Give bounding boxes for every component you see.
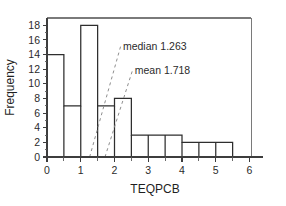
y-tick-label: 14 xyxy=(28,48,40,60)
annotation-label-median: median 1.263 xyxy=(123,40,187,52)
y-tick-label: 0 xyxy=(34,151,40,163)
annotation-label-mean: mean 1.718 xyxy=(135,64,191,76)
chart-background xyxy=(0,0,286,206)
x-axis-title: TEQPCB xyxy=(130,182,179,196)
x-tick-label: 3 xyxy=(145,164,151,176)
x-tick-label: 1 xyxy=(78,164,84,176)
x-tick-label: 5 xyxy=(213,164,219,176)
y-tick-label: 6 xyxy=(34,107,40,119)
y-tick-label: 16 xyxy=(28,34,40,46)
x-tick-label: 0 xyxy=(44,164,50,176)
x-tick-label: 6 xyxy=(247,164,253,176)
histogram-svg: 0123456 024681012141618 median 1.263mean… xyxy=(0,0,286,206)
x-tick-label: 4 xyxy=(179,164,185,176)
y-tick-label: 10 xyxy=(28,77,40,89)
y-tick-label: 8 xyxy=(34,92,40,104)
y-tick-label: 12 xyxy=(28,63,40,75)
x-tick-label: 2 xyxy=(112,164,118,176)
y-axis-title: Frequency xyxy=(3,59,17,116)
y-tick-label: 18 xyxy=(28,19,40,31)
y-tick-label: 2 xyxy=(34,136,40,148)
histogram-chart: 0123456 024681012141618 median 1.263mean… xyxy=(0,0,286,206)
y-tick-label: 4 xyxy=(34,121,40,133)
